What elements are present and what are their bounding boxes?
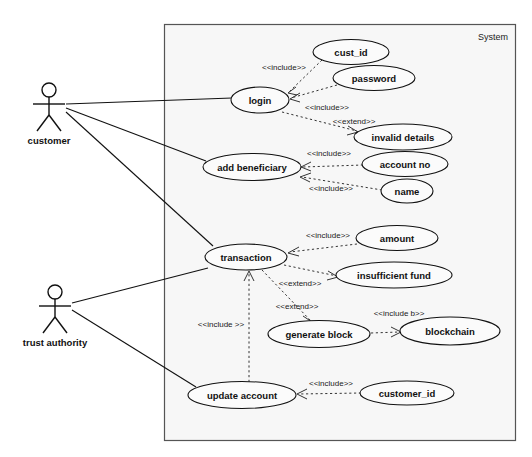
stereotype-label-name-add-beneficiary: <<include>> — [309, 184, 353, 193]
use-case-label: blockchain — [425, 326, 475, 337]
use-case-amount[interactable]: amount — [356, 226, 438, 251]
use-case-transaction[interactable]: transaction — [205, 244, 287, 270]
use-case-password[interactable]: password — [333, 66, 415, 91]
use-case-label: update account — [207, 390, 278, 401]
stereotype-label-transaction-insufficient-fund: <<extend>> — [279, 279, 322, 288]
stereotype-label-password-login: <<include>> — [305, 103, 349, 112]
system-boundary-label: System — [478, 32, 508, 42]
use-case-cust-id[interactable]: cust_id — [313, 40, 389, 65]
use-case-label: name — [395, 186, 420, 197]
actor-customer-label: customer — [28, 135, 71, 146]
stereotype-label-transaction-generate-block: <<extend>> — [276, 302, 319, 311]
use-case-add-beneficiary[interactable]: add beneficiary — [203, 154, 301, 181]
stereotype-label-update-account-transaction: <<include >> — [198, 320, 245, 329]
use-case-label: transaction — [220, 252, 271, 263]
actor-left-leg-line — [37, 115, 49, 131]
use-case-account-no[interactable]: account no — [362, 152, 448, 177]
stereotype-label-amount-transaction: <<include>> — [306, 231, 350, 240]
use-case-blockchain[interactable]: blockchain — [400, 317, 500, 345]
stereotype-label-login-invalid-details: <<extend>> — [333, 117, 376, 126]
use-case-update-account[interactable]: update account — [188, 382, 296, 409]
use-case-label: invalid details — [372, 132, 435, 143]
use-case-invalid-details[interactable]: invalid details — [354, 124, 452, 150]
use-case-diagram-canvas: System customer trust authority — [0, 0, 532, 457]
stereotype-label-customer-id-update-account: <<include>> — [309, 379, 353, 388]
use-case-name[interactable]: name — [381, 179, 433, 203]
use-case-label: login — [249, 95, 272, 106]
use-case-label: account no — [380, 159, 431, 170]
use-case-label: add beneficiary — [217, 162, 287, 173]
actor-right-leg-line — [55, 317, 67, 333]
actor-left-leg-line — [43, 317, 55, 333]
use-case-label: generate block — [285, 329, 353, 340]
actor-right-leg-line — [49, 115, 61, 131]
use-case-insufficient-fund[interactable]: insufficient fund — [336, 262, 452, 288]
actor-head-icon — [42, 83, 56, 97]
use-case-label: customer_id — [379, 388, 436, 399]
stereotype-label-cust-id-login: <<include>> — [262, 63, 306, 72]
use-case-label: amount — [380, 233, 415, 244]
use-case-generate-block[interactable]: generate block — [268, 321, 370, 348]
use-case-label: insufficient fund — [357, 270, 431, 281]
use-case-login[interactable]: login — [231, 87, 289, 113]
use-case-label: cust_id — [334, 47, 367, 58]
actor-head-icon — [48, 285, 62, 299]
actor-trust-authority[interactable]: trust authority — [23, 285, 88, 348]
use-case-label: password — [352, 73, 397, 84]
use-case-customer-id[interactable]: customer_id — [360, 381, 454, 405]
uml-diagram-svg: System customer trust authority — [0, 0, 532, 457]
stereotype-label-account-no-add-beneficiary: <<include>> — [307, 149, 351, 158]
stereotype-label-generate-block-blockchain: <<include b>> — [374, 309, 425, 318]
actor-customer[interactable]: customer — [28, 83, 71, 146]
actor-trust-authority-label: trust authority — [23, 337, 88, 348]
